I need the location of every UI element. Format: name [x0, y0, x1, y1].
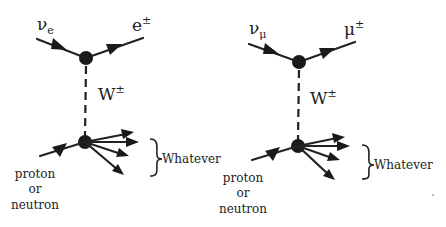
products-label: Whatever [150, 139, 221, 176]
incoming-lepton-label: νμ [249, 18, 267, 41]
diagram-electron: νe e± W± proton or neutron Whatever [11, 14, 221, 212]
boson-label: W± [310, 87, 337, 108]
feynman-diagrams-canvas: νe e± W± proton or neutron Whatever [0, 0, 446, 227]
arrow-icon [265, 147, 280, 161]
incoming-hadron-line [40, 142, 85, 157]
svg-text:Whatever: Whatever [374, 158, 433, 172]
speck [432, 194, 434, 196]
outgoing-lepton-label: μ± [344, 18, 364, 39]
svg-text:proton: proton [15, 167, 56, 181]
svg-text:or: or [29, 182, 42, 196]
arrow-icon [319, 48, 335, 59]
svg-text:Whatever: Whatever [162, 152, 221, 166]
incoming-neutrino-line [249, 43, 299, 62]
incoming-neutrino-line [37, 38, 86, 58]
arrow-icon [263, 43, 279, 54]
incoming-lepton-label: νe [37, 14, 54, 37]
outgoing-electron-line [86, 38, 143, 58]
incoming-hadron-line [252, 146, 298, 161]
arrow-icon [106, 44, 122, 55]
svg-text:or: or [237, 186, 250, 200]
hadron-label: proton or neutron [219, 171, 267, 216]
hadron-label: proton or neutron [11, 167, 59, 212]
outgoing-lepton-label: e± [132, 14, 151, 35]
outgoing-muon-line [299, 42, 355, 62]
brace-icon [362, 145, 374, 179]
top-vertex [292, 55, 306, 69]
product-arrows [85, 129, 139, 175]
boson-label: W± [98, 83, 125, 104]
svg-text:proton: proton [223, 171, 264, 185]
w-boson-propagator [298, 70, 299, 140]
arrow-icon [51, 38, 67, 50]
top-vertex [79, 51, 93, 65]
products-label: Whatever [362, 145, 433, 179]
brace-icon [150, 139, 162, 176]
arrow-icon [52, 143, 67, 157]
svg-text:neutron: neutron [219, 202, 267, 216]
product-arrows [298, 133, 350, 180]
svg-text:neutron: neutron [11, 198, 59, 212]
w-boson-propagator [85, 66, 86, 136]
diagram-muon: νμ μ± W± proton or neutron Whatever [219, 18, 433, 216]
